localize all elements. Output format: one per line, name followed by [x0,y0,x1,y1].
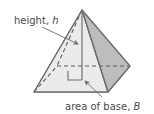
base-label: area of base, B [65,101,141,112]
pyramid-svg: height, h area of base, B [0,0,154,114]
height-label-variable: h [52,15,58,26]
base-label-variable: B [134,101,141,112]
base-label-text: area of base, [65,101,134,112]
pyramid-diagram: height, h area of base, B [0,0,154,114]
height-label-text: height, [14,15,52,26]
height-label: height, h [14,15,59,26]
